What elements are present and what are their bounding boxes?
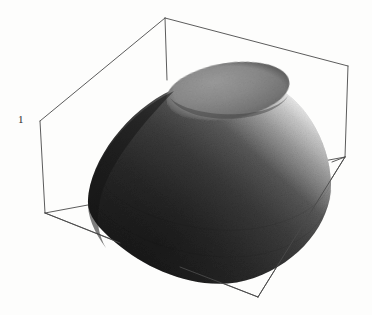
axis-edge-right-vertical (345, 66, 348, 157)
figure-canvas: 1 (0, 0, 372, 315)
axis-tick-label-1: 1 (18, 114, 24, 125)
surface-plot-svg (0, 0, 372, 315)
axis-edge-back-vertical (165, 18, 167, 80)
surface-mesh (80, 54, 342, 290)
axis-edge-top-rear-right (165, 18, 348, 66)
axis-edge-left-vertical (40, 121, 45, 213)
